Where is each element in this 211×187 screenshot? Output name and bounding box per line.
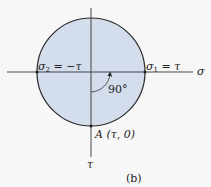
sigma2-symbol: σ: [38, 60, 46, 73]
tau-axis-label: τ: [87, 159, 93, 170]
sigma2-value: = −τ: [50, 60, 82, 73]
sigma-axis-label: σ: [197, 66, 205, 77]
sigma1-label: σ1 = τ: [146, 61, 180, 74]
figure-caption: (b): [126, 173, 142, 184]
sigma2-label: σ2 = −τ: [38, 61, 82, 74]
angle-label: 90°: [108, 84, 128, 95]
sigma1-value: = τ: [158, 60, 180, 73]
mohr-circle-graphic: [0, 0, 211, 187]
point-a: [90, 125, 93, 128]
mohr-circle-figure: σ2 = −τ σ1 = τ σ τ 90° A (τ, 0) (b): [0, 0, 211, 187]
sigma1-symbol: σ: [146, 60, 154, 73]
point-a-label: A (τ, 0): [95, 129, 135, 140]
